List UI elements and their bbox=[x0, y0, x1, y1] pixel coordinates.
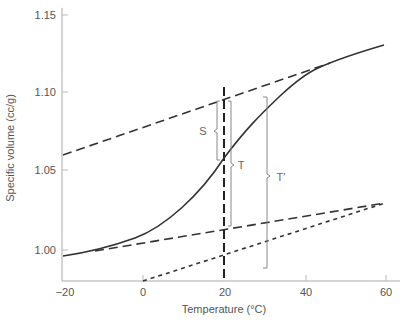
s-bracket bbox=[214, 101, 220, 160]
y-tick-label: 1.05 bbox=[35, 164, 56, 176]
dotted-line bbox=[143, 203, 385, 281]
y-ticks bbox=[62, 15, 68, 250]
x-tick-label: 60 bbox=[380, 286, 392, 298]
x-ticks bbox=[143, 275, 386, 281]
x-tick-label: 20 bbox=[219, 286, 231, 298]
x-tick-label: 0 bbox=[140, 286, 146, 298]
upper-dashed-line bbox=[63, 63, 330, 155]
specific-volume-chart: 1.15 1.10 1.05 1.00 −20 0 20 40 60 Tempe… bbox=[0, 0, 414, 322]
t-bracket bbox=[228, 101, 234, 226]
y-axis-label: Specific volume (cc/g) bbox=[4, 94, 16, 202]
lower-dashed-line bbox=[95, 203, 385, 251]
x-tick-label: 40 bbox=[300, 286, 312, 298]
y-tick-label: 1.00 bbox=[35, 244, 56, 256]
s-label: S bbox=[199, 125, 206, 137]
t-label: T bbox=[238, 159, 245, 171]
x-tick-label: −20 bbox=[56, 286, 75, 298]
x-axis-label: Temperature (°C) bbox=[182, 303, 266, 315]
y-tick-label: 1.10 bbox=[35, 86, 56, 98]
y-tick-label: 1.15 bbox=[35, 9, 56, 21]
t-prime-label: T′ bbox=[277, 171, 286, 183]
t-prime-bracket bbox=[263, 97, 270, 268]
